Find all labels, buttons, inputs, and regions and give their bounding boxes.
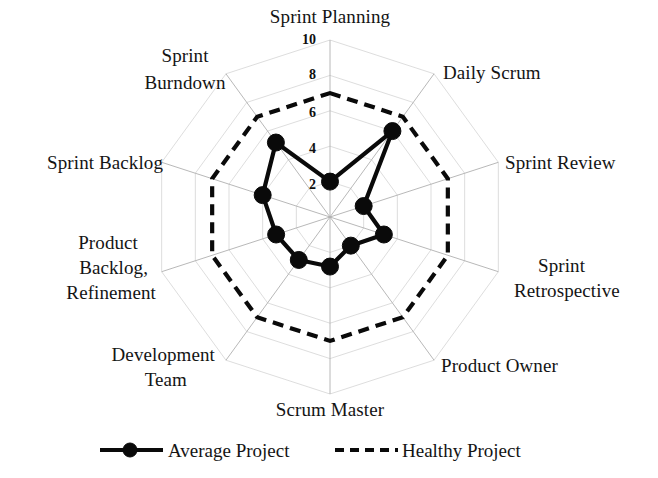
spoke-1 xyxy=(330,74,434,217)
axis-label-sprint-retrospective-line1: Sprint xyxy=(538,255,586,276)
radar-chart-container: 10 8 6 4 2 Sprint Planning Daily Scrum S… xyxy=(0,0,658,478)
tick-label-10: 10 xyxy=(302,32,316,47)
axis-label-sprint-burndown-line2: Burndown xyxy=(144,72,225,93)
data-point-9 xyxy=(267,134,284,151)
data-point-7 xyxy=(268,226,285,243)
axis-label-sprint-burndown-line1: Sprint xyxy=(161,45,209,66)
axis-label-sprint-review: Sprint Review xyxy=(505,152,616,173)
legend-item-average-project[interactable]: Average Project xyxy=(100,440,290,461)
axis-label-product-backlog-line2: Backlog, xyxy=(79,257,148,278)
axis-label-development-team-line1: Development xyxy=(112,344,216,365)
data-point-2 xyxy=(355,198,372,215)
legend: Average Project Healthy Project xyxy=(100,440,521,461)
axis-label-development-team-line2: Team xyxy=(145,369,187,390)
axis-label-sprint-retrospective-line2: Retrospective xyxy=(514,280,620,301)
axis-label-daily-scrum: Daily Scrum xyxy=(443,62,541,83)
axis-label-product-backlog-line1: Product xyxy=(78,232,138,253)
data-point-8 xyxy=(254,187,271,204)
data-point-5 xyxy=(322,258,339,275)
spoke-8 xyxy=(162,162,330,217)
tick-label-8: 8 xyxy=(309,67,316,82)
axis-label-product-backlog-line3: Refinement xyxy=(66,282,156,303)
data-point-3 xyxy=(375,226,392,243)
data-point-4 xyxy=(342,237,359,254)
legend-item-healthy-project[interactable]: Healthy Project xyxy=(335,440,521,461)
axis-label-sprint-backlog: Sprint Backlog xyxy=(47,152,163,173)
axis-label-sprint-planning: Sprint Planning xyxy=(270,6,391,27)
tick-label-6: 6 xyxy=(309,105,316,120)
legend-swatch-marker xyxy=(123,443,137,457)
data-point-6 xyxy=(290,251,307,268)
tick-label-4: 4 xyxy=(309,141,316,156)
series-average-project-markers xyxy=(254,123,401,275)
radar-chart-svg: 10 8 6 4 2 Sprint Planning Daily Scrum S… xyxy=(0,0,658,478)
legend-label-healthy-project: Healthy Project xyxy=(402,440,521,461)
axis-label-scrum-master: Scrum Master xyxy=(276,399,385,420)
data-point-1 xyxy=(384,123,401,140)
data-point-0 xyxy=(322,173,339,190)
legend-label-average-project: Average Project xyxy=(168,440,290,461)
tick-label-2: 2 xyxy=(309,177,316,192)
axis-label-product-owner: Product Owner xyxy=(441,355,558,376)
